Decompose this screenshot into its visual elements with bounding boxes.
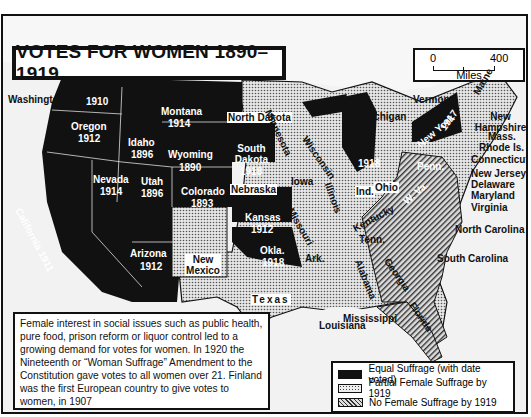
label-washington: Washington [8, 94, 65, 105]
scale-max: 400 [490, 52, 508, 64]
label-wyoming: Wyoming [168, 149, 213, 160]
label-maryland: Maryland [471, 190, 515, 201]
label-arkansas: Ark. [305, 253, 324, 264]
label-north-dakota: North Dakota [227, 112, 292, 123]
label-utah: Utah [141, 176, 163, 187]
label-texas: Texas [251, 294, 291, 305]
map-title: VOTES FOR WOMEN 1890–1919 [16, 41, 282, 85]
label-oregon: Oregon [71, 121, 107, 132]
label-connecticut: Connecticut [471, 154, 528, 165]
info-text-box: Female interest in social issues such as… [13, 312, 270, 410]
label-az-year: 1912 [140, 261, 162, 272]
label-delaware: Delaware [471, 179, 515, 190]
label-tennessee: Tenn. [359, 234, 385, 245]
label-nv-year: 1914 [100, 186, 122, 197]
label-indiana: Ind. [355, 186, 375, 197]
label-sd-year: 1918 [240, 166, 262, 177]
label-colorado: Colorado [181, 186, 225, 197]
label-new-hampshire: New Hampshire [473, 111, 528, 133]
label-new-jersey: New Jersey [471, 168, 526, 179]
label-nevada: Nevada [93, 174, 129, 185]
label-montana: Montana [161, 106, 202, 117]
label-vermont: Vermont [413, 94, 453, 105]
label-rhode-island: Rhode Is. [479, 142, 524, 153]
legend-swatch-partial [338, 384, 362, 393]
label-ohio: Ohio [374, 182, 399, 193]
label-ut-year: 1896 [141, 188, 163, 199]
legend-swatch-equal [338, 370, 362, 379]
label-mt-year: 1914 [168, 118, 190, 129]
label-virginia: Virginia [471, 202, 508, 213]
label-co-year: 1893 [191, 198, 213, 209]
title-box: VOTES FOR WOMEN 1890–1919 [12, 46, 286, 80]
label-mi-year: 1918 [358, 158, 380, 169]
label-michigan: Michigan [363, 111, 406, 122]
label-id-year: 1896 [131, 149, 153, 160]
label-wa-year: 1910 [86, 96, 108, 107]
label-south-carolina: South Carolina [437, 253, 508, 264]
legend-swatch-none [338, 398, 363, 407]
label-mississippi: Mississippi [343, 313, 397, 324]
legend: Equal Suffrage (with date voted) Partial… [331, 361, 515, 413]
label-nebraska: Nebraska [230, 184, 277, 195]
label-or-year: 1912 [78, 133, 100, 144]
legend-item-none: No Female Suffrage by 1919 [338, 395, 508, 409]
label-new-mexico: New Mexico [185, 254, 221, 276]
legend-label-none: No Female Suffrage by 1919 [369, 397, 497, 408]
label-pennsylvania: Penn. [417, 161, 444, 172]
info-text: Female interest in social issues such as… [20, 318, 262, 407]
label-arizona: Arizona [130, 248, 167, 259]
label-iowa: Iowa [291, 176, 313, 187]
label-ok-year: 1918 [262, 257, 284, 268]
scale-unit: Miles [415, 69, 523, 81]
legend-item-partial: Partial Female Suffrage by 1919 [338, 381, 508, 395]
label-wy-year: 1890 [179, 162, 201, 173]
label-oklahoma: Okla. [260, 245, 284, 256]
label-ks-year: 1912 [251, 224, 273, 235]
label-kansas: Kansas [245, 212, 281, 223]
map-frame: VOTES FOR WOMEN 1890–1919 0 400 Miles Wa… [1, 14, 528, 414]
scale-min: 0 [430, 52, 436, 64]
label-idaho: Idaho [128, 137, 155, 148]
label-south-dakota: South Dakota [229, 143, 274, 165]
label-north-carolina: North Carolina [455, 224, 524, 235]
scale-bar: 0 400 Miles [413, 48, 525, 82]
